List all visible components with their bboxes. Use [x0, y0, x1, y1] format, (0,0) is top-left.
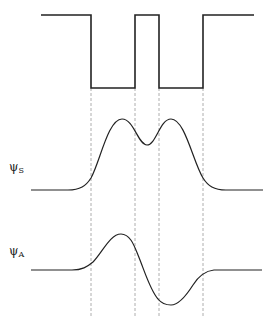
well-boundary-lines: [91, 88, 203, 318]
psi-s-subscript: S: [18, 166, 23, 175]
psi-s-label: ψS: [9, 160, 24, 175]
double-well-diagram: [0, 0, 272, 330]
psi-a-label: ψA: [9, 244, 24, 259]
psi-a-curve: [31, 234, 262, 305]
psi-a-subscript: A: [18, 250, 24, 259]
psi-a-symbol: ψ: [9, 244, 18, 258]
psi-s-curve: [31, 119, 263, 190]
psi-s-symbol: ψ: [9, 160, 18, 174]
potential-profile: [41, 15, 254, 88]
